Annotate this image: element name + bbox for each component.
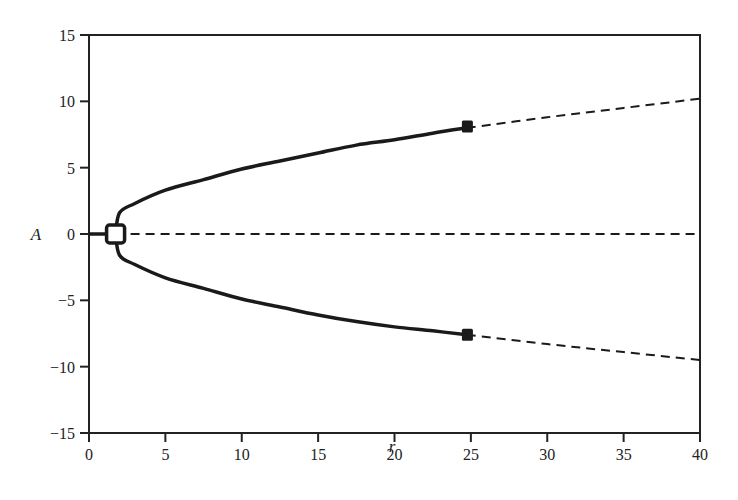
x-tick-label: 10 <box>234 446 250 463</box>
y-tick-label: −5 <box>58 292 75 309</box>
open-square-marker <box>107 225 125 243</box>
filled-square-marker <box>462 121 473 133</box>
x-axis-label: r <box>389 437 396 456</box>
y-tick-label: 15 <box>59 27 75 44</box>
series-lower-unstable-branch <box>467 335 700 360</box>
y-tick-label: 5 <box>67 160 75 177</box>
y-tick-label: 0 <box>67 226 75 243</box>
x-tick-label: 30 <box>539 446 555 463</box>
y-tick-label: −15 <box>50 425 75 442</box>
x-tick-label: 25 <box>463 446 479 463</box>
series-upper-stable-branch <box>116 128 467 234</box>
x-tick-label: 15 <box>310 446 326 463</box>
y-tick-label: 10 <box>59 93 75 110</box>
series-lower-stable-branch <box>116 234 467 335</box>
filled-square-marker <box>462 329 473 341</box>
bifurcation-chart: 0510152025303540151050−5−10−15 r A <box>0 0 738 500</box>
series <box>89 99 700 360</box>
y-axis-label: A <box>30 225 42 244</box>
y-tick-label: −10 <box>50 359 75 376</box>
x-tick-label: 0 <box>85 446 93 463</box>
ticks: 0510152025303540151050−5−10−15 <box>50 27 708 463</box>
series-upper-unstable-branch <box>467 99 700 128</box>
x-tick-label: 40 <box>692 446 708 463</box>
x-tick-label: 5 <box>161 446 169 463</box>
x-tick-label: 35 <box>616 446 632 463</box>
